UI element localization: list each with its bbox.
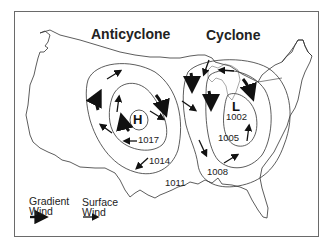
isobar-label-1014: 1014	[149, 155, 170, 166]
legend-surface-line2: Wind	[82, 207, 118, 217]
isobar-label-1017: 1017	[138, 134, 159, 145]
legend-gradient-wind: Gradient Wind	[29, 196, 69, 216]
isobar-label-1002: 1002	[226, 111, 247, 122]
legend-gradient-line2: Wind	[29, 206, 69, 216]
anticyclone-title: Anticyclone	[91, 26, 170, 42]
high-pressure-center: H	[133, 112, 142, 127]
legend-surface-wind: Surface Wind	[82, 197, 118, 217]
isobar-label-1005: 1005	[218, 132, 239, 143]
isobar-label-1008: 1008	[207, 166, 228, 177]
us-outline	[26, 30, 312, 218]
isobar-label-1011: 1011	[165, 177, 185, 188]
cyclone-title: Cyclone	[206, 27, 260, 43]
